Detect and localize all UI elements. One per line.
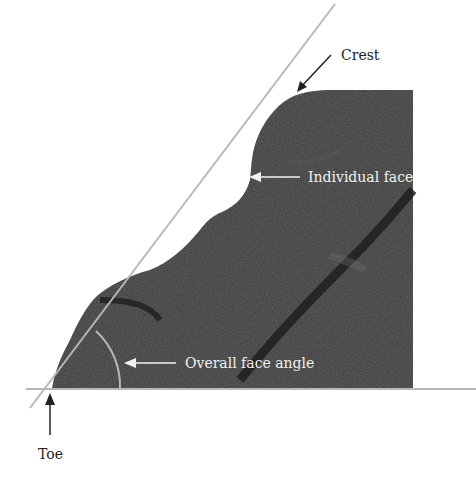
crest-arrow — [297, 55, 331, 92]
individual-face-label: Individual face — [308, 169, 413, 185]
overall-face-angle-label: Overall face angle — [185, 355, 314, 371]
toe-arrow — [45, 393, 55, 435]
toe-label: Toe — [38, 446, 63, 462]
slope-diagram: Crest Individual face Overall face angle… — [0, 0, 476, 487]
crest-label: Crest — [341, 47, 380, 63]
